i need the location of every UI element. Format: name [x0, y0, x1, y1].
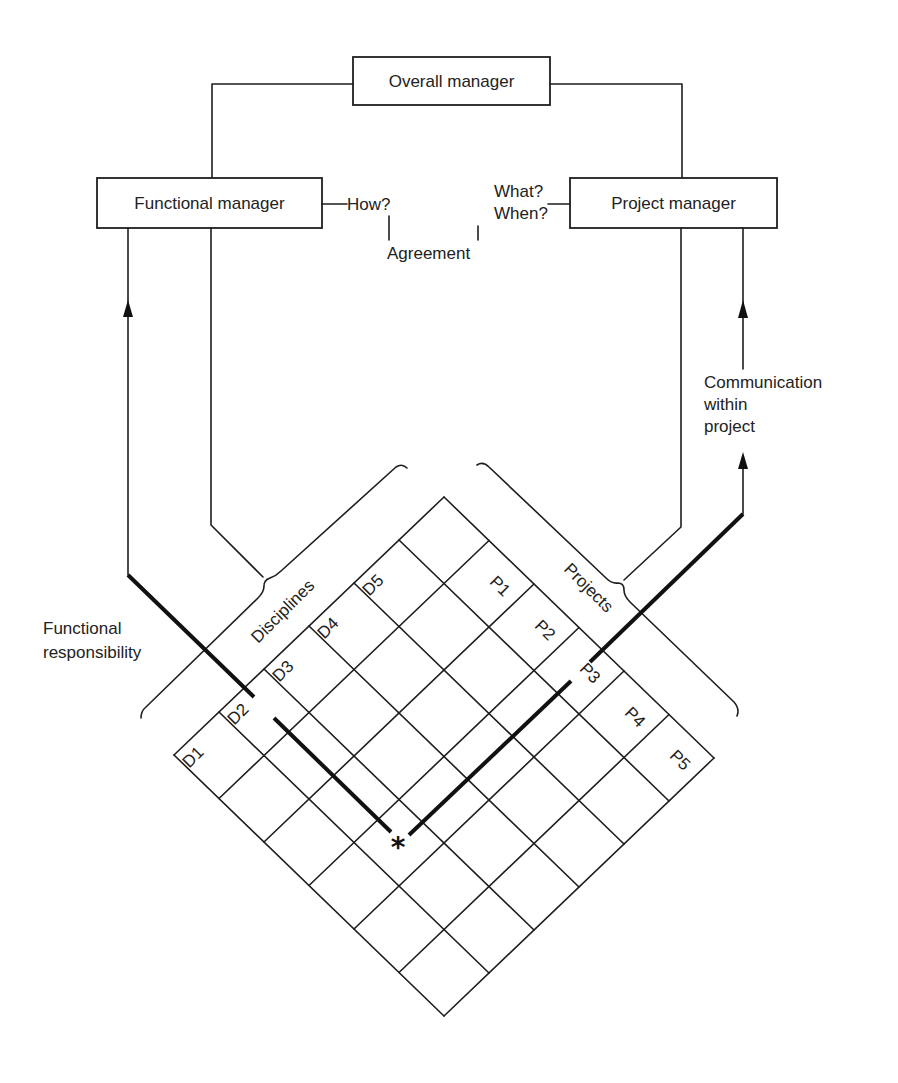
cell-label-p1: P1	[486, 572, 514, 600]
communication-within-project-label: Communication within project	[703, 373, 822, 436]
functional-responsibility-path	[123, 228, 391, 832]
projects-label: Projects	[560, 559, 617, 616]
overall-manager-node: Overall manager	[353, 57, 550, 105]
arrow-up-icon	[738, 452, 748, 469]
agreement-label: Agreement	[387, 244, 470, 263]
functional-manager-node: Functional manager	[97, 178, 322, 228]
cell-label-p4: P4	[621, 703, 649, 731]
connector-overall-to-functional	[212, 84, 353, 178]
arrow-up-icon	[738, 300, 748, 318]
project-manager-node: Project manager	[570, 178, 777, 228]
svg-text:responsibility: responsibility	[43, 643, 142, 662]
svg-text:Functional: Functional	[43, 619, 121, 638]
how-label: How?	[347, 195, 390, 214]
matrix-organization-diagram: Overall manager Functional manager Proje…	[0, 0, 898, 1083]
communication-path	[409, 228, 748, 835]
matrix-grid	[174, 497, 714, 1016]
svg-text:project: project	[704, 417, 755, 436]
functional-responsibility-label: Functional responsibility	[43, 619, 142, 662]
what-label: What?	[494, 182, 543, 201]
cell-label-p2: P2	[531, 616, 559, 644]
disciplines-label: Disciplines	[247, 576, 318, 647]
cell-label-p3: P3	[576, 659, 604, 687]
arrow-up-icon	[123, 300, 133, 317]
overall-manager-label: Overall manager	[389, 72, 515, 91]
projects-brace	[477, 463, 738, 716]
when-label: When?	[494, 204, 548, 223]
functional-to-disciplines-line	[211, 228, 263, 577]
connector-overall-to-project	[550, 84, 682, 178]
intersection-star-icon: *	[391, 831, 406, 864]
svg-text:within: within	[703, 395, 747, 414]
project-manager-label: Project manager	[611, 194, 736, 213]
cell-label-p5: P5	[666, 746, 694, 774]
functional-manager-label: Functional manager	[134, 194, 285, 213]
svg-text:Communication: Communication	[704, 373, 822, 392]
project-to-projects-line	[624, 228, 681, 580]
